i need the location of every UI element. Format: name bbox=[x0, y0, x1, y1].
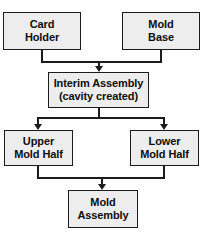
node-mold-assembly-line1: Mold bbox=[69, 196, 137, 210]
node-mold-base-line1: Mold bbox=[123, 18, 199, 32]
node-upper-mold-half-line1: Upper bbox=[5, 135, 72, 149]
node-lower-mold-half-line1: Lower bbox=[131, 135, 198, 149]
connector-split-bar bbox=[37, 117, 165, 119]
node-card-holder[interactable]: Card Holder bbox=[3, 12, 81, 50]
node-upper-mold-half-line2: Mold Half bbox=[5, 148, 72, 162]
node-mold-assembly[interactable]: Mold Assembly bbox=[68, 190, 138, 228]
flowchart-canvas: Card Holder Mold Base Interim Assembly (… bbox=[0, 0, 204, 234]
node-interim-assembly[interactable]: Interim Assembly (cavity created) bbox=[48, 72, 149, 108]
node-mold-assembly-line2: Assembly bbox=[69, 209, 137, 223]
node-mold-base-line2: Base bbox=[123, 31, 199, 45]
node-card-holder-line2: Holder bbox=[4, 31, 80, 45]
node-mold-base[interactable]: Mold Base bbox=[122, 12, 200, 50]
node-interim-assembly-line1: Interim Assembly bbox=[49, 77, 148, 91]
node-interim-assembly-line2: (cavity created) bbox=[49, 90, 148, 104]
node-upper-mold-half[interactable]: Upper Mold Half bbox=[4, 130, 73, 166]
clipped-header-text bbox=[2, 0, 152, 5]
node-card-holder-line1: Card bbox=[4, 18, 80, 32]
connector-merge-bar-top bbox=[41, 61, 162, 63]
node-lower-mold-half-line2: Mold Half bbox=[131, 148, 198, 162]
node-lower-mold-half[interactable]: Lower Mold Half bbox=[130, 130, 199, 166]
